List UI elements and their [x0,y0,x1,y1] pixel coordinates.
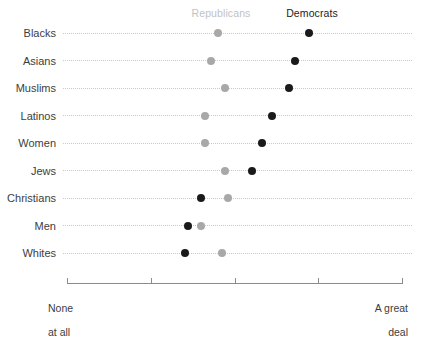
row-label-men: Men [35,220,56,232]
data-point-democrats-christians[interactable] [197,194,205,202]
data-point-democrats-whites[interactable] [181,249,189,257]
data-point-republicans-whites[interactable] [218,249,226,257]
row-label-jews: Jews [31,165,56,177]
x-axis-label-max-line1: A great [375,302,408,314]
data-point-republicans-men[interactable] [197,222,205,230]
row-label-muslims: Muslims [16,82,56,94]
row-guide-line [63,88,412,90]
data-point-democrats-women[interactable] [258,139,266,147]
x-axis-label-max: A great deal [375,290,408,340]
row-guide-line [63,60,412,62]
row-guide-line [63,115,412,117]
data-point-republicans-asians[interactable] [207,57,215,65]
data-point-democrats-blacks[interactable] [305,29,313,37]
legend-label-republicans: Republicans [192,7,251,19]
data-point-republicans-blacks[interactable] [214,29,222,37]
x-axis-cap-right [402,278,403,284]
x-axis-label-min-line1: None [48,302,73,314]
row-guide-line [63,198,412,200]
data-point-republicans-jews[interactable] [221,167,229,175]
x-axis-tick-2 [235,278,236,284]
row-label-christians: Christians [7,192,56,204]
cropped-footer-artifact [14,322,40,325]
x-axis-cap-left [67,278,68,284]
x-axis-tick-3 [318,278,319,284]
data-point-democrats-jews[interactable] [248,167,256,175]
data-point-republicans-women[interactable] [201,139,209,147]
row-guide-line [63,170,412,172]
data-point-democrats-muslims[interactable] [285,84,293,92]
data-point-republicans-muslims[interactable] [221,84,229,92]
row-label-asians: Asians [23,55,56,67]
x-axis-label-max-line2: deal [375,326,408,338]
data-point-republicans-latinos[interactable] [201,112,209,120]
row-label-latinos: Latinos [21,110,56,122]
row-guide-line [63,33,412,35]
row-label-blacks: Blacks [24,27,56,39]
data-point-democrats-men[interactable] [184,222,192,230]
x-axis-label-min: None at all [48,290,73,340]
data-point-democrats-latinos[interactable] [268,112,276,120]
row-guide-line [63,143,412,145]
row-guide-line [63,225,412,227]
row-label-women: Women [18,137,56,149]
row-guide-line [63,253,412,255]
data-point-republicans-christians[interactable] [224,194,232,202]
x-axis-tick-1 [151,278,152,284]
legend-label-democrats: Democrats [286,7,338,19]
x-axis-label-min-line2: at all [48,326,73,338]
data-point-democrats-asians[interactable] [291,57,299,65]
row-label-whites: Whites [22,247,56,259]
